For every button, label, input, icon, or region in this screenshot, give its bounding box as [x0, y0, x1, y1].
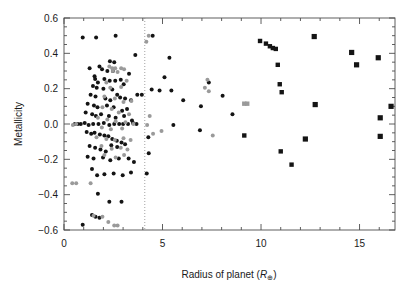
- data-point: [162, 75, 166, 79]
- data-point: [87, 123, 91, 127]
- data-point: [122, 153, 126, 157]
- data-point: [123, 96, 127, 100]
- data-point: [113, 138, 117, 142]
- data-point: [123, 120, 127, 124]
- data-point: [122, 67, 126, 71]
- data-point: [279, 149, 283, 153]
- data-point: [129, 99, 133, 103]
- data-point: [107, 200, 111, 204]
- data-point: [96, 192, 100, 196]
- data-point: [102, 133, 106, 137]
- scatter-plot-figure: 051015 0.60.40.20.0−0.2−0.4−0.6 Radius o…: [0, 0, 419, 286]
- data-point: [135, 93, 139, 97]
- data-point: [83, 121, 87, 125]
- data-point: [129, 138, 133, 142]
- data-point: [120, 200, 124, 204]
- data-point: [114, 116, 118, 120]
- data-point: [92, 214, 96, 218]
- data-point: [93, 146, 97, 150]
- data-point: [127, 156, 131, 160]
- data-point: [108, 158, 112, 162]
- data-point: [211, 133, 215, 137]
- data-point: [127, 112, 131, 116]
- data-point: [354, 62, 359, 67]
- x-tick-label: 5: [160, 238, 166, 249]
- data-point: [245, 101, 249, 105]
- data-point: [81, 35, 85, 39]
- data-point: [88, 144, 92, 148]
- data-point: [205, 78, 209, 82]
- data-point: [120, 126, 124, 130]
- data-point: [276, 63, 280, 67]
- data-point: [105, 103, 109, 107]
- data-point: [95, 86, 99, 90]
- data-point: [79, 122, 83, 126]
- data-point: [388, 104, 393, 109]
- data-point: [70, 181, 74, 185]
- data-point: [100, 105, 104, 109]
- data-point: [100, 215, 104, 219]
- data-point: [148, 114, 152, 118]
- x-tick-label: 0: [61, 238, 67, 249]
- data-point: [122, 114, 126, 118]
- data-point: [90, 112, 94, 116]
- data-point: [110, 107, 114, 111]
- y-tick-label: 0.2: [44, 83, 58, 94]
- data-point: [207, 89, 211, 93]
- data-point: [114, 156, 118, 160]
- data-point: [378, 134, 383, 139]
- data-point: [264, 41, 268, 45]
- x-tick-label: 10: [255, 238, 267, 249]
- data-point: [113, 79, 117, 83]
- data-point: [105, 118, 109, 122]
- data-point: [84, 111, 88, 115]
- data-point: [95, 105, 99, 109]
- data-point: [125, 79, 129, 83]
- data-point: [102, 153, 106, 157]
- data-point: [104, 80, 108, 84]
- data-point: [86, 102, 90, 106]
- data-point: [92, 103, 96, 107]
- data-point: [127, 72, 131, 76]
- data-point: [119, 78, 123, 82]
- data-point: [289, 162, 293, 166]
- data-point: [115, 145, 119, 149]
- data-point: [167, 56, 171, 60]
- plot-canvas: 051015 0.60.40.20.0−0.2−0.4−0.6 Radius o…: [0, 0, 419, 286]
- data-point: [133, 53, 137, 57]
- data-point: [102, 172, 106, 176]
- data-point: [89, 132, 93, 136]
- y-tick-label: 0.6: [44, 13, 58, 24]
- data-point: [158, 88, 162, 92]
- data-point: [102, 77, 106, 81]
- data-point: [108, 98, 112, 102]
- data-point: [107, 114, 111, 118]
- data-point: [312, 34, 317, 39]
- data-point: [150, 88, 154, 92]
- data-point: [181, 98, 185, 102]
- data-point: [109, 143, 113, 147]
- data-point: [89, 93, 93, 97]
- data-point: [88, 66, 92, 70]
- data-point: [100, 126, 104, 130]
- data-point: [112, 60, 116, 64]
- data-point: [313, 102, 318, 107]
- y-tick-label: −0.6: [38, 225, 58, 236]
- data-point: [89, 181, 93, 185]
- data-point: [114, 119, 118, 123]
- data-point: [98, 133, 102, 137]
- data-point: [378, 115, 383, 120]
- data-point: [132, 160, 136, 164]
- data-point: [101, 87, 105, 91]
- data-point: [203, 86, 207, 90]
- data-point: [95, 135, 99, 139]
- data-point: [144, 40, 148, 44]
- data-point: [71, 123, 75, 127]
- data-point: [125, 148, 129, 152]
- data-point: [120, 141, 124, 145]
- data-point: [119, 85, 123, 89]
- data-point: [106, 220, 110, 224]
- data-point: [230, 112, 234, 116]
- data-point: [74, 122, 78, 126]
- data-point: [116, 224, 120, 228]
